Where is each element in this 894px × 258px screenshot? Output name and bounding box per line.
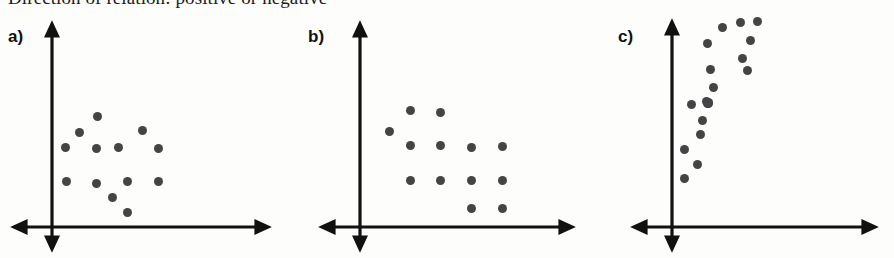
scatter-panel-b: b) xyxy=(300,14,594,258)
data-point xyxy=(687,100,696,109)
data-point xyxy=(746,36,755,45)
data-point xyxy=(62,177,71,186)
data-point xyxy=(436,141,445,150)
data-point xyxy=(709,83,718,92)
data-point xyxy=(406,176,415,185)
data-point xyxy=(154,144,163,153)
data-point xyxy=(718,23,727,32)
data-point xyxy=(123,208,132,217)
data-point xyxy=(698,116,707,125)
data-point xyxy=(406,106,415,115)
data-point xyxy=(703,99,712,108)
data-point xyxy=(703,39,712,48)
scatter-panel-a: a) xyxy=(0,14,294,258)
data-point xyxy=(92,179,101,188)
data-point xyxy=(467,143,476,152)
data-point xyxy=(736,18,745,27)
panel-c-points xyxy=(600,14,894,258)
data-point xyxy=(138,126,147,135)
data-point xyxy=(696,130,705,139)
data-point xyxy=(436,176,445,185)
panel-b-points xyxy=(300,14,594,258)
data-point xyxy=(467,176,476,185)
panel-a-points xyxy=(0,14,294,258)
data-point xyxy=(680,145,689,154)
data-point xyxy=(743,66,752,75)
data-point xyxy=(92,144,101,153)
data-point xyxy=(680,174,689,183)
data-point xyxy=(123,177,132,186)
data-point xyxy=(75,128,84,137)
data-point xyxy=(406,141,415,150)
data-point xyxy=(498,204,507,213)
figure-heading: Direction of relation: positive or negat… xyxy=(8,0,888,9)
data-point xyxy=(385,127,394,136)
data-point xyxy=(467,204,476,213)
data-point xyxy=(753,17,762,26)
data-point xyxy=(436,108,445,117)
data-point xyxy=(61,143,70,152)
data-point xyxy=(108,193,117,202)
figure-container: Direction of relation: positive or negat… xyxy=(0,0,894,258)
data-point xyxy=(498,142,507,151)
data-point xyxy=(693,160,702,169)
data-point xyxy=(706,65,715,74)
data-point xyxy=(93,112,102,121)
data-point xyxy=(738,54,747,63)
data-point xyxy=(114,143,123,152)
scatter-panel-c: c) xyxy=(600,14,894,258)
data-point xyxy=(154,177,163,186)
data-point xyxy=(498,176,507,185)
